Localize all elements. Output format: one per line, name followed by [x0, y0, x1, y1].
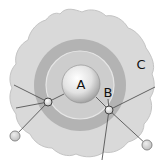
outer-node-left	[10, 131, 20, 141]
node-b	[105, 106, 113, 114]
concentric-diagram: A B C	[0, 0, 159, 163]
label-a: A	[77, 77, 86, 92]
node-left	[44, 98, 52, 106]
label-b: B	[104, 85, 113, 100]
label-c: C	[136, 57, 145, 72]
outer-node-right	[142, 140, 152, 150]
